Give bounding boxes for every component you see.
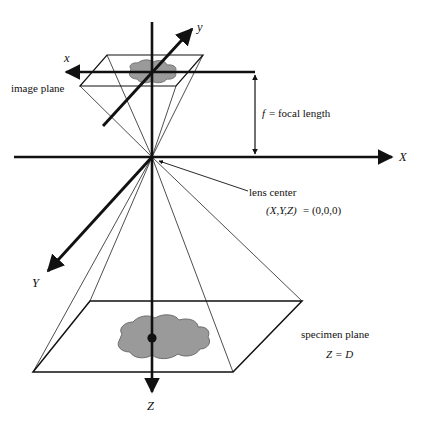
- lens-center-coords-rhs: = (0,0,0): [303, 204, 342, 217]
- diagram-canvas: y x X Y Z image plane f = focal length l…: [0, 0, 423, 425]
- ray-to-specimen-back-left: [90, 157, 152, 301]
- ray-to-image-front-right: [152, 86, 176, 157]
- axis-label-x: x: [63, 51, 70, 65]
- specimen-center-dot: [147, 333, 156, 342]
- axis-y-line: [103, 29, 192, 126]
- image-plane-label: image plane: [11, 82, 65, 94]
- focal-length-label: f = focal length: [262, 107, 331, 119]
- projection-diagram: y x X Y Z image plane f = focal length l…: [0, 0, 423, 425]
- lens-center-label: lens center: [249, 186, 297, 198]
- specimen-depth-lhs: Z: [326, 348, 333, 360]
- lens-center-coords: (X,Y,Z) = (0,0,0): [266, 204, 342, 217]
- focal-length-symbol: f: [262, 107, 267, 119]
- axis-label-Y: Y: [32, 276, 41, 290]
- lens-center-coords-lhs: (X,Y,Z): [266, 204, 297, 217]
- axis-label-Z: Z: [147, 399, 155, 413]
- specimen-blob: [118, 315, 209, 359]
- specimen-plane-label: specimen plane: [301, 328, 369, 340]
- axis-label-y: y: [195, 20, 203, 34]
- axis-Y-line: [48, 157, 152, 271]
- axis-label-X: X: [398, 150, 408, 164]
- specimen-blob-shape: [118, 315, 209, 359]
- specimen-depth-label: Z = D: [326, 348, 353, 360]
- ray-to-image-front-left: [80, 86, 152, 157]
- ray-to-specimen-back-right: [152, 157, 302, 301]
- focal-length-text: = focal length: [269, 107, 331, 119]
- specimen-depth-rhs: = D: [335, 348, 353, 360]
